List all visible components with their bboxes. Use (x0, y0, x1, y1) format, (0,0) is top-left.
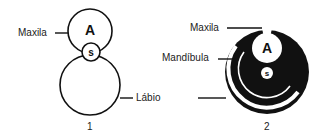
glyph-s-1: s (88, 47, 94, 58)
label-maxila-2: Maxila (190, 23, 219, 33)
label-mandibula: Mandíbula (162, 53, 209, 63)
glyph-a-1: A (85, 22, 95, 38)
glyph-s-2: s (265, 69, 270, 78)
labio-circle-1 (60, 55, 120, 115)
diagram-canvas: A s A s (0, 0, 327, 140)
caption-2: 2 (264, 122, 270, 132)
glyph-a-2: A (262, 40, 272, 56)
label-maxila-1: Maxila (18, 28, 47, 38)
figure-2 (198, 28, 309, 114)
label-labio: Lábio (136, 93, 160, 103)
caption-1: 1 (87, 122, 93, 132)
